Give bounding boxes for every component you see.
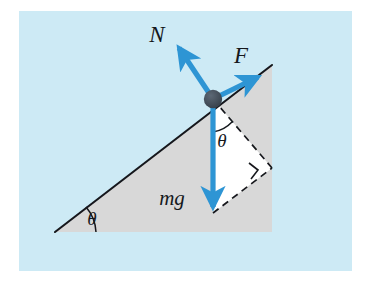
incline-angle-label: θ <box>87 208 96 229</box>
weight-angle-label: θ <box>217 130 226 151</box>
block-particle-dot <box>204 90 222 108</box>
inclined-plane-diagram: N F mg θ θ <box>0 0 371 285</box>
weight-label: mg <box>159 186 185 210</box>
figure-root: N F mg θ θ <box>0 0 371 285</box>
normal-force-label: N <box>148 22 166 47</box>
applied-force-label: F <box>233 43 249 68</box>
